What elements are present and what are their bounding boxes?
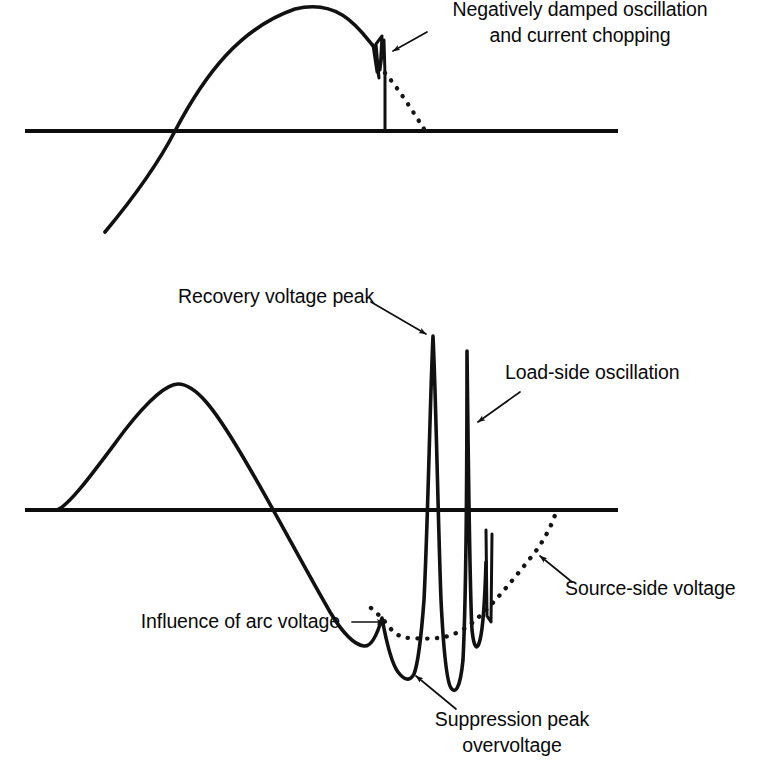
narrow-suppression-spike — [486, 530, 492, 622]
suppression-peak-overvoltage-label-line1: Suppression peak — [435, 708, 590, 730]
negatively-damped-label-line1: Negatively damped oscillation — [452, 0, 707, 20]
recovery-voltage-peak-leader — [371, 302, 426, 334]
negatively-damped-label-line2: and current chopping — [489, 24, 670, 46]
negatively-damped-leader — [393, 32, 427, 51]
load-side-oscillation-label: Load-side oscillation — [505, 361, 680, 383]
figure-root: Negatively damped oscillation and curren… — [0, 0, 760, 777]
recovery-voltage-peak-label: Recovery voltage peak — [178, 285, 375, 307]
load-side-oscillation-leader — [478, 392, 520, 422]
load-side-voltage-trace — [57, 336, 486, 690]
chopping-oscillation-zigzag — [373, 36, 385, 131]
waveform-figure: Negatively damped oscillation and curren… — [0, 0, 760, 777]
top-post-chop-dotted-decay — [385, 73, 424, 129]
suppression-peak-overvoltage-label-line2: overvoltage — [462, 734, 562, 756]
source-side-voltage-label: Source-side voltage — [565, 577, 735, 599]
top-current-waveform — [105, 7, 374, 232]
top-panel: Negatively damped oscillation and curren… — [25, 0, 708, 232]
influence-of-arc-voltage-label: Influence of arc voltage — [141, 610, 340, 632]
bottom-panel: Recovery voltage peak Load-side oscillat… — [25, 285, 735, 756]
